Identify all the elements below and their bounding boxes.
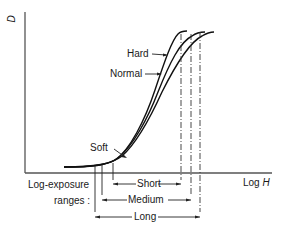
range-label-medium: Medium — [128, 195, 164, 205]
range-label-short: Short — [137, 179, 161, 189]
x-axis-label-prefix: Log — [243, 177, 262, 188]
curve-label-hard: Hard — [127, 49, 149, 59]
curve-label-normal: Normal — [110, 69, 142, 79]
ranges-title-line1: Log-exposure — [28, 180, 89, 190]
x-axis-label: Log H — [243, 178, 270, 188]
curve-hard — [64, 31, 187, 167]
curve-label-soft: Soft — [90, 143, 108, 153]
range-label-long: Long — [134, 212, 156, 222]
ranges-title-line2: ranges : — [54, 196, 90, 206]
x-axis-label-var: H — [262, 177, 269, 188]
y-axis-label: D — [7, 15, 17, 22]
